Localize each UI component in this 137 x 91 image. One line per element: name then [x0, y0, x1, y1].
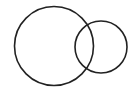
small-circle [75, 21, 127, 73]
venn-diagram [0, 0, 137, 91]
large-circle [15, 7, 94, 86]
